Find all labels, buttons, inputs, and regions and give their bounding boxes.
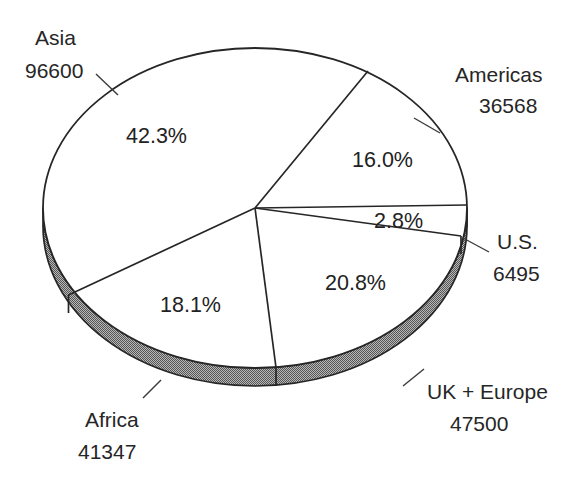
label-us-value: 6495 (493, 262, 540, 285)
label-ukeurope-name: UK + Europe (427, 380, 548, 403)
percent-label-us: 2.8% (374, 209, 423, 233)
label-africa-value: 41347 (78, 440, 136, 463)
label-asia-value: 96600 (25, 59, 83, 82)
label-asia-name: Asia (35, 26, 76, 49)
pie-chart-svg: Asia 96600 Americas 36568 U.S. 6495 UK +… (0, 0, 582, 486)
percent-label-americas: 16.0% (352, 148, 413, 172)
percent-label-ukeurope: 20.8% (325, 271, 386, 295)
label-africa-name: Africa (85, 408, 139, 431)
percent-label-asia: 42.3% (126, 124, 187, 148)
percent-label-africa: 18.1% (160, 293, 221, 317)
label-us-name: U.S. (497, 230, 538, 253)
label-americas-name: Americas (455, 63, 543, 86)
label-ukeurope-value: 47500 (450, 412, 508, 435)
pie-chart-figure: Asia 96600 Americas 36568 U.S. 6495 UK +… (0, 0, 582, 486)
label-americas-value: 36568 (479, 94, 537, 117)
